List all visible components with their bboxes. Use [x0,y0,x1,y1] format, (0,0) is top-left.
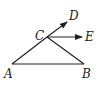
label-e: E [84,30,94,44]
ray-cd [47,22,67,37]
segment-cb [47,37,84,64]
label-c: C [35,29,44,43]
label-b: B [81,67,91,81]
label-a: A [3,67,13,81]
label-d: D [68,9,79,23]
geometry-diagram: A B C D E [0,0,98,93]
